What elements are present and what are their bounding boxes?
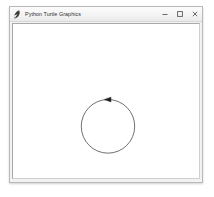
minimize-icon [161, 10, 169, 18]
window-title: Python Turtle Graphics [25, 11, 157, 18]
turtle-drawing-canvas [13, 24, 199, 178]
maximize-button[interactable] [172, 7, 187, 21]
drawn-circle [81, 100, 134, 154]
close-button[interactable] [187, 7, 202, 21]
turtle-cursor [104, 97, 111, 102]
window-controls [157, 7, 202, 21]
turtle-graphics-window[interactable]: Python Turtle Graphics [9, 6, 203, 183]
turtle-canvas-area[interactable] [12, 23, 200, 179]
maximize-icon [176, 10, 184, 18]
close-icon [191, 10, 199, 18]
minimize-button[interactable] [157, 7, 172, 21]
title-bar[interactable]: Python Turtle Graphics [10, 7, 202, 22]
python-feather-icon [13, 10, 22, 19]
